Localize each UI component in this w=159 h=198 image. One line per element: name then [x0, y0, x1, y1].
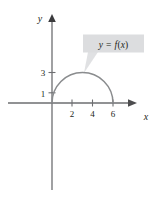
- y-tick-label-1: 1: [41, 89, 46, 99]
- x-axis-arrowhead: [128, 99, 137, 107]
- callout-close-paren: ): [125, 40, 128, 51]
- y-axis-label: y: [37, 13, 43, 24]
- y-tick-label-3: 3: [41, 68, 46, 78]
- graph-svg: 2 4 6 1 3 y x y=f(x): [0, 0, 159, 198]
- callout-leader: [84, 52, 98, 73]
- x-tick-label-4: 4: [90, 109, 95, 119]
- figure-container: 2 4 6 1 3 y x y=f(x): [0, 0, 159, 198]
- function-curve: [52, 72, 113, 103]
- x-tick-label-2: 2: [70, 109, 75, 119]
- x-axis-label: x: [143, 111, 149, 122]
- x-tick-label-6: 6: [111, 109, 116, 119]
- callout-y: y: [98, 40, 104, 50]
- callout-equals: =: [106, 40, 111, 50]
- y-axis-arrowhead: [48, 14, 56, 22]
